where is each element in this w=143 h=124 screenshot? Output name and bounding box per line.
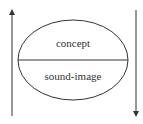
- sound-image-label: sound-image: [45, 70, 102, 82]
- concept-label: concept: [56, 37, 90, 49]
- sign-diagram: concept sound-image: [0, 0, 143, 124]
